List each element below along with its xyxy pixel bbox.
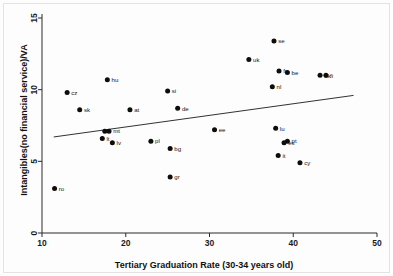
x-tick-label: 50: [372, 238, 382, 248]
point-marker: [271, 38, 276, 43]
point-marker: [77, 107, 82, 112]
point-marker: [297, 160, 302, 165]
point-label: cy: [304, 159, 311, 166]
data-point: pt: [285, 137, 297, 144]
data-point: [102, 129, 107, 134]
data-point: lt: [100, 135, 110, 142]
data-point: pl: [148, 137, 159, 144]
point-marker: [102, 129, 107, 134]
point-label: lt: [107, 135, 110, 142]
data-point: be: [285, 69, 299, 76]
point-label: nl: [277, 83, 282, 90]
point-label: cz: [71, 89, 77, 96]
point-marker: [318, 73, 323, 78]
y-tick-label: 5: [29, 159, 39, 164]
data-point: gr: [168, 173, 180, 180]
point-label: gr: [174, 173, 179, 180]
y-tick-label: 15: [29, 13, 39, 23]
point-label: pl: [155, 137, 160, 144]
point-marker: [100, 136, 105, 141]
point-marker: [276, 153, 281, 158]
x-tick-label: 30: [205, 238, 215, 248]
point-label: fi: [330, 72, 333, 79]
point-label: pt: [292, 137, 297, 144]
data-point: cy: [297, 159, 311, 166]
point-label: bg: [174, 145, 181, 152]
data-point: lu: [273, 125, 284, 132]
point-label: be: [292, 69, 299, 76]
data-point: ee: [212, 126, 226, 133]
data-point: si: [165, 87, 176, 94]
point-label: sk: [84, 106, 91, 113]
point-marker: [285, 70, 290, 75]
trend-line: [54, 95, 354, 137]
point-marker: [270, 84, 275, 89]
data-point: sk: [77, 106, 91, 113]
y-axis-title: Intangibles(no financial service)/VA: [19, 44, 29, 196]
point-marker: [105, 77, 110, 82]
point-marker: [165, 89, 170, 94]
point-label: si: [172, 87, 176, 94]
data-point: uk: [246, 56, 260, 63]
data-point: lv: [110, 139, 122, 146]
point-label: uk: [253, 56, 260, 63]
point-marker: [148, 139, 153, 144]
point-label: de: [182, 105, 189, 112]
data-point: de: [175, 105, 189, 112]
point-marker: [246, 57, 251, 62]
data-points: roczskltmthulvatplsibggrdeeeuknlseluitfr…: [52, 37, 333, 192]
data-point: se: [271, 37, 285, 44]
point-label: se: [278, 37, 285, 44]
data-point: hu: [105, 76, 118, 83]
y-tick-label: 0: [29, 230, 39, 235]
x-axis-title: Tertiary Graduation Rate (30-34 years ol…: [115, 260, 293, 270]
point-marker: [52, 186, 57, 191]
point-label: mt: [113, 127, 120, 134]
data-point: bg: [168, 145, 181, 152]
point-marker: [65, 90, 70, 95]
data-point: ro: [52, 185, 65, 192]
point-marker: [212, 127, 217, 132]
point-marker: [323, 73, 328, 78]
point-marker: [127, 107, 132, 112]
point-marker: [285, 139, 290, 144]
point-label: ee: [219, 126, 226, 133]
point-marker: [110, 140, 115, 145]
data-point: cz: [65, 89, 78, 96]
point-marker: [277, 69, 282, 74]
x-tick-label: 40: [289, 238, 299, 248]
axes: 0510151020304050: [29, 13, 382, 248]
data-point: at: [127, 106, 139, 113]
point-label: lu: [280, 125, 285, 132]
figure-border: [4, 4, 390, 273]
chart-figure: 0510151020304050 roczskltmthulvatplsibgg…: [0, 0, 393, 276]
point-marker: [273, 126, 278, 131]
point-label: hu: [112, 76, 119, 83]
point-label: at: [134, 106, 139, 113]
x-tick-label: 20: [121, 238, 131, 248]
point-marker: [175, 106, 180, 111]
point-label: it: [282, 152, 285, 159]
data-point: mt: [107, 127, 121, 134]
data-point: it: [276, 152, 286, 159]
y-tick-label: 10: [29, 85, 39, 95]
data-point: nl: [270, 83, 281, 90]
point-marker: [168, 146, 173, 151]
point-marker: [168, 175, 173, 180]
point-label: ro: [59, 185, 65, 192]
x-tick-label: 10: [37, 238, 47, 248]
point-label: lv: [117, 139, 122, 146]
scatter-plot-svg: 0510151020304050 roczskltmthulvatplsibgg…: [0, 0, 393, 276]
